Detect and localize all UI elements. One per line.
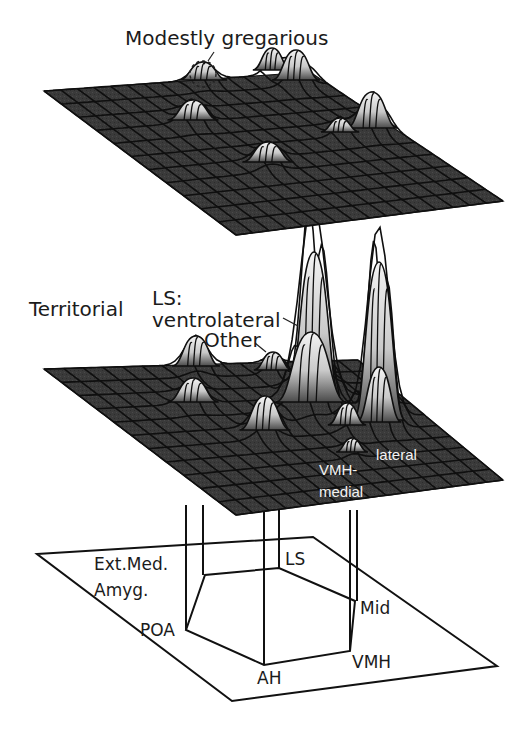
label-vmh-dash: VMH- xyxy=(319,462,357,477)
label-other: Other xyxy=(204,330,261,350)
callout-line-ventrolateral xyxy=(283,318,298,326)
label-mid: Mid xyxy=(360,600,390,617)
label-ah: AH xyxy=(257,670,281,687)
label-amyg: Amyg. xyxy=(94,582,148,599)
label-territorial: Territorial xyxy=(29,299,123,319)
activity-peak xyxy=(179,62,227,80)
brain-activity-surface-diagram xyxy=(0,0,532,743)
label-modestly-gregarious: Modestly gregarious xyxy=(125,28,328,48)
label-ventrolateral: ventrolateral xyxy=(152,310,281,330)
callout-line xyxy=(208,52,214,61)
gregarious-activity-surface xyxy=(44,48,503,235)
label-ls: LS xyxy=(285,551,305,568)
territorial-activity-surface xyxy=(44,200,503,516)
label-lateral: lateral xyxy=(376,447,417,462)
label-vmh: VMH xyxy=(352,654,391,671)
label-ext-med: Ext.Med. xyxy=(94,556,168,573)
label-ls-prefix: LS: xyxy=(152,288,183,308)
label-medial: medial xyxy=(319,484,363,499)
label-poa: POA xyxy=(140,622,175,639)
